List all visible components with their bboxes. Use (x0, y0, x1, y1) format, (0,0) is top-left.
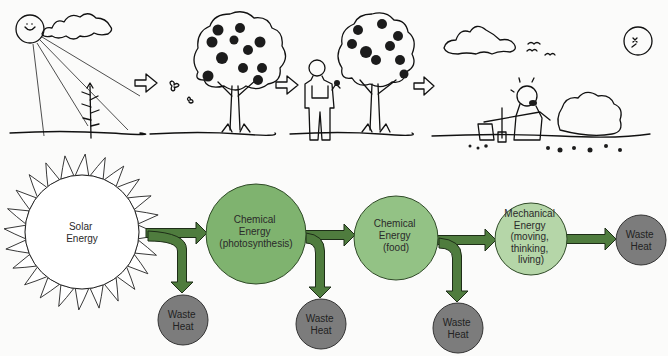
label-line: Energy (239, 226, 271, 237)
waste-heat-node (296, 299, 346, 349)
label-line: Solar (69, 221, 93, 232)
waste-heat-node (616, 215, 666, 265)
farmer-figure (305, 60, 340, 140)
sun-ray (75, 154, 88, 175)
bush (558, 92, 621, 135)
label-line: (photosynthesis) (219, 238, 292, 249)
fork-arrow (437, 229, 496, 302)
arrow-to-waste-heat (306, 233, 331, 298)
apple-icons (203, 23, 268, 85)
smiling-sun-icon (16, 15, 140, 136)
fork-arrow (304, 224, 355, 298)
label-line: Mechanical (504, 208, 555, 219)
panel-fruit-tree (150, 12, 286, 136)
sun-ray (75, 289, 88, 310)
label-line: Waste (626, 229, 654, 240)
panel-farmer-eating (290, 13, 414, 140)
label-line: Heat (630, 241, 651, 252)
cloud-icon (444, 26, 515, 54)
arrow-to-next-stage (566, 228, 616, 250)
label-line: Waste (168, 309, 196, 320)
wood-chips (469, 144, 623, 153)
outline-arrow-icon (414, 77, 434, 95)
label-line: Chemical (234, 214, 276, 225)
flow-diagram: Solar Energy Chemical Energy (photosynth… (4, 154, 666, 353)
label-line: living) (518, 254, 544, 265)
label-line: Energy (66, 233, 98, 244)
tired-man-figure (511, 78, 542, 140)
birds-icon (527, 43, 555, 56)
energy-flow-diagram: Solar Energy Chemical Energy (photosynth… (0, 0, 668, 356)
label-line: Chemical (374, 218, 416, 229)
label-line: Energy (379, 230, 411, 241)
panel-sun-seedling (10, 14, 146, 138)
label-line: thinking, (511, 243, 548, 254)
solar-energy-label: Solar Energy (66, 221, 98, 244)
ground-line (290, 133, 413, 136)
sun-ray (4, 225, 25, 238)
outline-arrow-icon (276, 76, 298, 94)
butterfly-icon (170, 81, 193, 103)
outline-arrow-icon (135, 74, 157, 92)
seedling-icon (82, 83, 99, 138)
fork-arrow (566, 228, 616, 250)
label-line: Heat (447, 329, 468, 340)
panel-tired-woodcutter (432, 26, 652, 152)
label-line: (moving, (510, 231, 548, 242)
fork-arrow (146, 222, 207, 293)
label-line: Heat (310, 325, 331, 336)
label-line: Energy (514, 220, 546, 231)
solar-energy-sun (4, 154, 160, 310)
ground-line (10, 132, 146, 135)
apple-icons (347, 19, 409, 79)
label-line: Heat (172, 321, 193, 332)
frowning-sun-icon (624, 27, 652, 55)
arrow-to-waste-heat (439, 238, 468, 302)
label-line: Waste (443, 317, 471, 328)
cloud-icon (42, 14, 112, 39)
illustration-strip (10, 12, 652, 153)
waste-heat-node (158, 295, 208, 345)
waste-heat-node (433, 303, 483, 353)
ground-line (150, 133, 276, 136)
arrow-to-waste-heat (148, 231, 193, 293)
label-line: Waste (306, 313, 334, 324)
label-line: (food) (383, 242, 409, 253)
